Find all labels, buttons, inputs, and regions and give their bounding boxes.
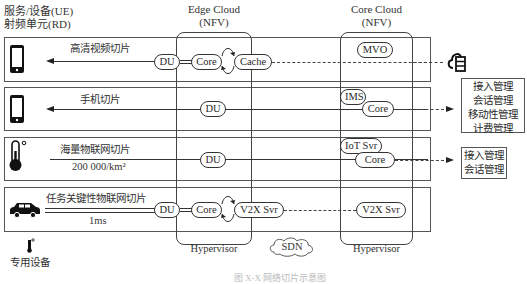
du-node: DU — [154, 202, 180, 218]
arrow-left-icon — [46, 58, 54, 64]
edge-cloud-title: Edge Cloud — [176, 3, 252, 16]
edge-cloud-header: Edge Cloud (NFV) — [176, 3, 252, 29]
thermometer-icon — [7, 139, 31, 173]
function-box-iot: 接入管理 会话管理 — [461, 147, 507, 179]
figure-caption: 图 X-X 网络切片示意图 — [200, 271, 360, 284]
sdn-label: SDN — [268, 241, 316, 253]
smartphone-icon — [9, 44, 25, 74]
core-node: Core — [355, 152, 395, 168]
slice-name-mobile: 手机切片 — [80, 94, 120, 106]
arrow-right-icon — [446, 106, 454, 112]
du-node: DU — [200, 152, 226, 168]
edge-hypervisor-label: Hypervisor — [176, 243, 252, 255]
cloud-server-icon — [445, 48, 471, 74]
ue-header-line2: 射频单元(RD) — [4, 18, 73, 31]
function-access: 接入管理 — [464, 149, 504, 163]
smartphone-icon — [9, 94, 25, 124]
v2x-server-node-core: V2X Svr — [356, 202, 406, 218]
dashed-link — [394, 109, 444, 110]
edge-core-node: Core — [191, 54, 222, 70]
core-hypervisor-label: Hypervisor — [340, 243, 413, 255]
dashed-link — [395, 160, 444, 161]
dashed-link — [284, 210, 356, 211]
ue-header-line1: 服务/设备(UE) — [4, 5, 73, 18]
v2x-server-node-edge: V2X Svr — [234, 202, 284, 218]
edge-cloud-nfv: (NFV) — [176, 16, 252, 29]
special-device-label: 专用设备 — [10, 257, 50, 269]
slice-name-massive-iot: 海量物联网切片 — [60, 144, 130, 156]
dashed-link — [272, 62, 432, 63]
slice-metric-density: 200 000/km² — [72, 161, 126, 173]
special-device-icon — [25, 238, 35, 254]
ims-node: IMS — [340, 89, 366, 105]
edge-core-node: Core — [191, 202, 222, 218]
slice-name-hd-video: 高清视频切片 — [70, 43, 130, 55]
slice-name-critical-iot: 任务关键性物联网切片 — [46, 193, 146, 205]
mvo-node: MVO — [357, 42, 393, 58]
link-line — [48, 61, 154, 62]
core-hypervisor-text: Hypervisor — [353, 243, 400, 254]
cache-node: Cache — [234, 54, 272, 70]
function-access: 接入管理 — [464, 80, 522, 94]
slice-metric-latency: 1ms — [89, 215, 107, 227]
function-session: 会话管理 — [464, 163, 504, 177]
core-cloud-nfv: (NFV) — [340, 16, 413, 29]
ue-header: 服务/设备(UE) 射频单元(RD) — [4, 5, 73, 31]
core-cloud-title: Core Cloud — [340, 3, 413, 16]
du-node: DU — [200, 101, 226, 117]
arrow-right-icon — [446, 157, 454, 163]
arrow-left-icon — [46, 106, 54, 112]
link-line — [45, 208, 155, 209]
core-cloud-header: Core Cloud (NFV) — [340, 3, 413, 29]
function-billing: 计费管理 — [464, 122, 522, 136]
edge-hypervisor-text: Hypervisor — [190, 243, 237, 254]
link-line — [45, 212, 155, 213]
function-mobility: 移动性管理 — [464, 108, 522, 122]
car-icon — [9, 202, 41, 218]
function-session: 会话管理 — [464, 94, 522, 108]
core-node: Core — [362, 101, 394, 117]
function-box-mobile: 接入管理 会话管理 移动性管理 计费管理 — [461, 78, 525, 133]
dashed-link — [413, 62, 443, 63]
du-node: DU — [154, 54, 180, 70]
